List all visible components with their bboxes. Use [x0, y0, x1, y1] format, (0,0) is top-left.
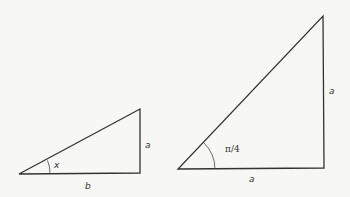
left-angle-label: x: [53, 160, 60, 170]
triangles-figure: x a b π/4 a a: [0, 0, 350, 197]
right-triangle-shape: [178, 16, 324, 169]
left-triangle-shape: [19, 109, 140, 174]
right-angle-label: π/4: [225, 144, 240, 154]
left-adjacent-label: b: [85, 181, 91, 191]
diagram-canvas: x a b π/4 a a: [0, 0, 350, 197]
right-angle-arc: [204, 143, 216, 169]
left-angle-arc: [48, 161, 51, 174]
left-triangle: x a b: [19, 109, 151, 191]
right-opposite-label: a: [329, 86, 335, 96]
right-triangle: π/4 a a: [178, 16, 335, 184]
left-opposite-label: a: [145, 140, 151, 150]
right-adjacent-label: a: [249, 174, 255, 184]
